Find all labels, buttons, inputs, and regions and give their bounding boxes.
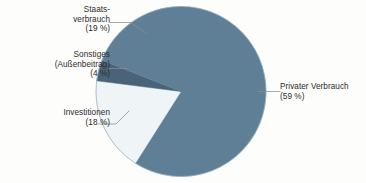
- staatsverbrauch-label-line1: Staats-: [18, 5, 110, 15]
- sonstiges-label-value: (4 %): [4, 69, 110, 79]
- pie-slices: [96, 7, 266, 177]
- investitionen-label-line1: Investitionen: [6, 108, 110, 118]
- slice-label-privater: Privater Verbrauch (59 %): [280, 82, 366, 101]
- sonstiges-label-line2: (Außenbeitrag): [4, 60, 110, 70]
- staatsverbrauch-label-value: (19 %): [18, 24, 110, 34]
- staatsverbrauch-label-line2: verbrauch: [18, 15, 110, 25]
- slice-label-investitionen: Investitionen (18 %): [6, 108, 110, 127]
- slice-label-sonstiges: Sonstiges (Außenbeitrag) (4 %): [4, 50, 110, 79]
- sonstiges-label-line1: Sonstiges: [4, 50, 110, 60]
- privater-label-value: (59 %): [280, 92, 366, 102]
- pie-chart-figure: Staats- verbrauch (19 %) Sonstiges (Auße…: [0, 0, 366, 183]
- slice-label-staatsverbrauch: Staats- verbrauch (19 %): [18, 5, 110, 34]
- privater-label-line1: Privater Verbrauch: [280, 82, 366, 92]
- investitionen-label-value: (18 %): [6, 118, 110, 128]
